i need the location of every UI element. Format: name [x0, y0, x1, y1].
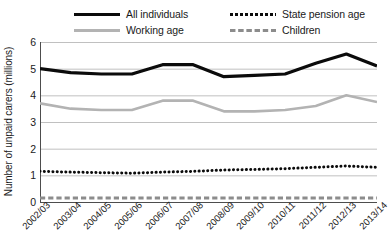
- legend-swatch-solid-gray-icon: [74, 25, 120, 35]
- y-axis-tick-label: 6: [19, 37, 36, 47]
- plot-area-wrapper: 6543210: [19, 42, 377, 202]
- chart-legend: All individuals Working age State pensio…: [74, 6, 374, 38]
- legend-label: State pension age: [282, 9, 365, 20]
- chart-canvas: [40, 42, 377, 203]
- y-axis-title-text: Number of unpaid carers (millions): [4, 46, 15, 195]
- legend-item-state-pension-age: State pension age: [230, 7, 365, 21]
- y-axis-tick-label: 3: [19, 117, 36, 127]
- x-axis-tick-labels: 2002/032003/042004/052005/062006/072007/…: [40, 200, 377, 250]
- y-axis-title: Number of unpaid carers (millions): [0, 42, 18, 200]
- legend-swatch-dotted-icon: [230, 9, 276, 19]
- series-line: [40, 95, 377, 111]
- series-line: [40, 166, 377, 173]
- legend-label: Children: [282, 25, 320, 36]
- legend-item-working-age: Working age: [74, 23, 184, 37]
- y-axis-tick-labels: 6543210: [19, 42, 36, 202]
- y-axis-tick-label: 2: [19, 144, 36, 154]
- legend-item-children: Children: [230, 23, 320, 37]
- plot-area: [40, 42, 377, 202]
- y-axis-tick-label: 0: [19, 197, 36, 207]
- legend-swatch-solid-black-icon: [74, 9, 120, 19]
- y-axis-tick-label: 1: [19, 170, 36, 180]
- y-axis-tick-label: 5: [19, 64, 36, 74]
- series-line: [40, 54, 377, 77]
- legend-label: Working age: [126, 25, 184, 36]
- legend-item-all-individuals: All individuals: [74, 7, 188, 21]
- legend-label: All individuals: [126, 9, 188, 20]
- y-axis-tick-label: 4: [19, 90, 36, 100]
- legend-swatch-dashed-icon: [230, 25, 276, 35]
